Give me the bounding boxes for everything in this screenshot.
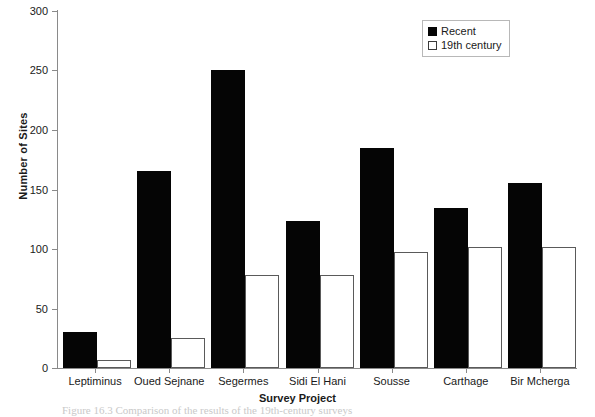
y-tick-label-250: 250 bbox=[4, 65, 48, 75]
bar-19th-century[interactable] bbox=[468, 247, 502, 368]
legend-item-19th-century: 19th century bbox=[428, 38, 502, 52]
x-tick-mark bbox=[466, 368, 467, 373]
bar-group bbox=[211, 10, 279, 368]
legend-swatch-recent bbox=[428, 27, 437, 36]
bar-group bbox=[434, 10, 502, 368]
bar-recent[interactable] bbox=[360, 148, 394, 368]
legend-item-recent: Recent bbox=[428, 24, 502, 38]
y-axis-title: Number of Sites bbox=[17, 91, 29, 221]
bar-recent[interactable] bbox=[286, 221, 320, 368]
legend-label-recent: Recent bbox=[441, 24, 476, 38]
plot-area bbox=[58, 10, 577, 368]
x-tick-mark bbox=[540, 368, 541, 373]
bar-group bbox=[360, 10, 428, 368]
x-tick-mark bbox=[169, 368, 170, 373]
bar-19th-century[interactable] bbox=[394, 252, 428, 368]
y-tick-label-0: 0 bbox=[4, 363, 48, 373]
x-tick-mark bbox=[318, 368, 319, 373]
y-tick-label-100: 100 bbox=[4, 244, 48, 254]
bar-recent[interactable] bbox=[137, 171, 171, 368]
bar-19th-century[interactable] bbox=[320, 275, 354, 368]
x-axis-title: Survey Project bbox=[0, 392, 595, 404]
bar-chart: Number of Sites 300 250 200 150 100 50 0… bbox=[0, 0, 595, 417]
y-tick-label-300: 300 bbox=[4, 6, 48, 16]
bar-recent[interactable] bbox=[434, 208, 468, 368]
x-tick-mark bbox=[392, 368, 393, 373]
bar-19th-century[interactable] bbox=[245, 275, 279, 368]
bar-19th-century[interactable] bbox=[542, 247, 576, 368]
bar-group bbox=[63, 10, 131, 368]
figure-caption: Figure 16.3 Comparison of the results of… bbox=[62, 404, 562, 416]
bar-19th-century[interactable] bbox=[171, 338, 205, 368]
legend: Recent 19th century bbox=[422, 20, 510, 57]
x-tick-mark bbox=[95, 368, 96, 373]
x-tick-mark bbox=[243, 368, 244, 373]
bar-group bbox=[508, 10, 576, 368]
legend-swatch-19th-century bbox=[428, 41, 437, 50]
bar-recent[interactable] bbox=[63, 332, 97, 368]
y-tick-label-150: 150 bbox=[4, 185, 48, 195]
x-category-label: Bir Mcherga bbox=[490, 375, 590, 387]
y-tick-label-200: 200 bbox=[4, 125, 48, 135]
bar-recent[interactable] bbox=[211, 70, 245, 368]
bar-group bbox=[286, 10, 354, 368]
bar-19th-century[interactable] bbox=[97, 360, 131, 368]
bar-recent[interactable] bbox=[508, 183, 542, 368]
y-tick-label-50: 50 bbox=[4, 304, 48, 314]
bar-group bbox=[137, 10, 205, 368]
legend-label-19th-century: 19th century bbox=[441, 38, 502, 52]
